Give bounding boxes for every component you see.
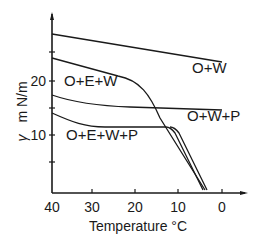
- curve-o-e-w-p-double: [170, 127, 207, 190]
- x-tick-30: 30: [84, 199, 100, 215]
- axes: [52, 14, 245, 193]
- y-axis-label: γ m N/m: [14, 81, 30, 141]
- y-tick-10: 10: [30, 127, 46, 143]
- x-tick-10: 10: [170, 199, 186, 215]
- x-axis-arrow-icon: [240, 191, 248, 195]
- y-axis-arrow-icon: [50, 12, 54, 20]
- x-tick-20: 20: [127, 199, 143, 215]
- y-axis-gamma: γ: [14, 134, 30, 142]
- y-axis-unit: m N/m: [14, 81, 30, 122]
- label-o-e-w: O+E+W: [64, 72, 118, 89]
- x-axis-label: Temperature °C: [89, 218, 187, 234]
- label-o-w: O+W: [192, 59, 227, 76]
- x-tick-40: 40: [44, 199, 60, 215]
- chart: 40 30 20 10 0 20 10 Temperature °C γ m N…: [0, 0, 264, 240]
- label-o-e-w-p: O+E+W+P: [66, 126, 138, 143]
- label-o-w-p: O+W+P: [187, 107, 240, 124]
- x-tick-0: 0: [218, 199, 226, 215]
- curve-o-w: [52, 34, 222, 62]
- y-tick-20: 20: [30, 73, 46, 89]
